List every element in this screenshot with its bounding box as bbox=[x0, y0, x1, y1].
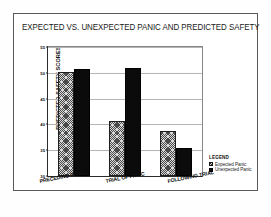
bar-unexpected-panic bbox=[125, 68, 141, 176]
chart-title: EXPECTED VS. UNEXPECTED PANIC AND PREDIC… bbox=[22, 23, 231, 32]
legend-item: Expected Panic bbox=[209, 162, 257, 167]
legend-swatch-icon bbox=[209, 162, 213, 166]
plot-area: PREDICTED SAFETY SCORES 303540455055 PRE… bbox=[47, 46, 203, 177]
gridline bbox=[48, 47, 202, 48]
y-tick-mark bbox=[46, 47, 49, 48]
y-tick-label: 45 bbox=[40, 96, 45, 101]
bar-unexpected-panic bbox=[176, 148, 192, 176]
legend-title: LEGEND bbox=[209, 155, 257, 160]
legend-label: Unexpected Panic bbox=[215, 167, 251, 172]
legend-label: Expected Panic bbox=[215, 162, 246, 167]
bar-expected-panic bbox=[160, 131, 176, 176]
bar-unexpected-panic bbox=[74, 69, 90, 176]
y-tick-label: 55 bbox=[40, 45, 45, 50]
y-tick-label: 35 bbox=[40, 148, 45, 153]
bar-expected-panic bbox=[109, 121, 125, 176]
y-tick-label: 50 bbox=[40, 70, 45, 75]
bar-expected-panic bbox=[58, 72, 74, 176]
y-tick-label: 40 bbox=[40, 122, 45, 127]
legend-rows: Expected PanicUnexpected Panic bbox=[209, 162, 257, 173]
figure-root: EXPECTED VS. UNEXPECTED PANIC AND PREDIC… bbox=[0, 0, 271, 217]
y-tick-mark bbox=[46, 150, 49, 151]
y-tick-mark bbox=[46, 124, 49, 125]
legend: LEGEND Expected PanicUnexpected Panic bbox=[209, 155, 257, 173]
legend-swatch-icon bbox=[209, 168, 213, 172]
y-tick-mark bbox=[46, 98, 49, 99]
y-tick-mark bbox=[46, 72, 49, 73]
legend-item: Unexpected Panic bbox=[209, 167, 257, 172]
